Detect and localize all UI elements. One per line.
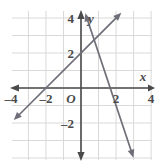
coordinate-graph-figure: –4–22442–2 x y O <box>0 0 165 168</box>
origin-label: O <box>66 91 76 106</box>
x-tick-label: –4 <box>3 91 18 106</box>
y-tick-label: 4 <box>68 11 75 26</box>
y-tick-label: –2 <box>60 116 74 131</box>
x-tick-label: –2 <box>38 91 52 106</box>
figure-background <box>0 0 165 168</box>
x-tick-label: 4 <box>148 91 155 106</box>
x-tick-label: 2 <box>113 91 120 106</box>
coordinate-plane-svg: –4–22442–2 x y O <box>0 0 165 168</box>
x-axis-label: x <box>139 69 147 84</box>
y-axis-label: y <box>86 11 94 26</box>
y-tick-label: 2 <box>68 46 75 61</box>
